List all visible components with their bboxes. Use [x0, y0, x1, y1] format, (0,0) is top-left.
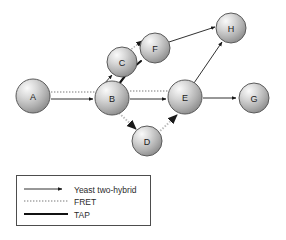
edge-E-H-y2h	[194, 42, 222, 83]
node-D[interactable]: D	[132, 126, 162, 156]
legend-label-fret: FRET	[74, 197, 96, 207]
node-B[interactable]: B	[95, 81, 129, 115]
node-layer: A C F B D E	[16, 13, 269, 156]
edge-F-H-y2h	[169, 27, 215, 42]
legend: Yeast two-hybrid FRET TAP	[17, 176, 151, 226]
node-F[interactable]: F	[140, 33, 170, 63]
figure-canvas: A C F B D E	[0, 0, 286, 240]
node-A[interactable]: A	[16, 79, 50, 113]
node-H[interactable]: H	[216, 13, 246, 43]
edge-B-D-fret	[119, 113, 136, 129]
network-diagram-svg: A C F B D E	[0, 0, 286, 240]
node-G[interactable]: G	[239, 83, 269, 113]
edge-D-E-fret	[158, 115, 177, 133]
node-E[interactable]: E	[168, 80, 202, 114]
legend-label-yeast-two-hybrid: Yeast two-hybrid	[74, 185, 137, 195]
node-C[interactable]: C	[107, 47, 137, 77]
legend-label-tap: TAP	[74, 210, 90, 220]
